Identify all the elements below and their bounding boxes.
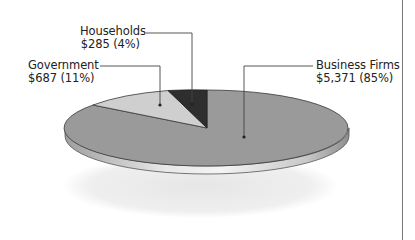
label-business-firms-value: $5,371 (85%) — [316, 72, 400, 85]
leader-dot-government — [158, 103, 161, 106]
label-business-firms: Business Firms $5,371 (85%) — [316, 59, 400, 85]
leader-dot-business-firms — [242, 135, 245, 138]
label-households-value: $285 (4%) — [80, 38, 140, 51]
leader-dot-households — [190, 102, 193, 105]
label-households: Households $285 (4%) — [80, 25, 140, 51]
pie-chart-graphic — [0, 0, 415, 240]
label-government: Government $687 (11%) — [28, 59, 94, 85]
label-government-value: $687 (11%) — [28, 72, 94, 85]
pie-chart: Households $285 (4%) Government $687 (11… — [0, 0, 415, 240]
frame-border-line — [402, 0, 403, 240]
